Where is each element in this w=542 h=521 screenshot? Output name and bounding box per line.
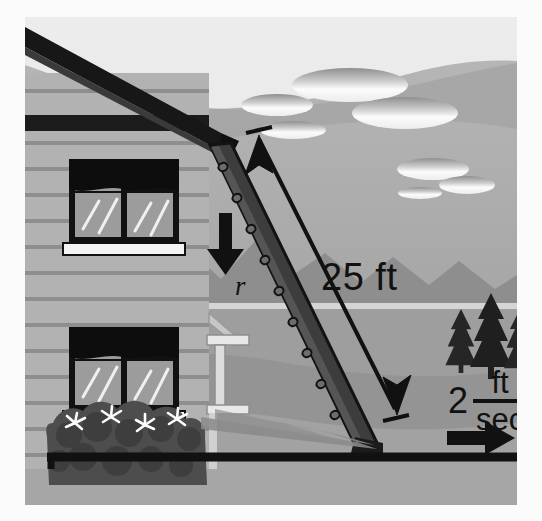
scene: 25 ft r 2 ft sec [25,17,517,505]
speed-value: 2 [448,383,468,419]
speed-unit-numerator: ft [491,367,508,398]
ladder-length-label: 25 ft [321,256,397,299]
cloud-icon [439,176,495,194]
cloud-icon [241,94,313,116]
window-valance [69,327,179,359]
cloud-icon [260,121,326,139]
horizontal-speed-label: 2 ft sec [448,367,517,435]
window-sill [63,243,185,255]
figure-canvas: 25 ft r 2 ft sec [0,0,542,521]
window-glass [75,361,121,405]
window-valance [69,159,179,191]
cloud-icon [292,68,408,102]
porch-header [207,335,249,345]
window-upper [63,159,185,255]
cloud-icon [398,187,442,199]
porch-column [215,345,225,407]
vertical-rate-label: r [235,271,246,302]
speed-unit-denominator: sec [476,404,517,435]
window-glass [75,193,121,237]
scene-illustration [25,17,517,505]
cloud-icon [352,97,458,129]
speed-units-fraction: ft sec [473,367,517,435]
